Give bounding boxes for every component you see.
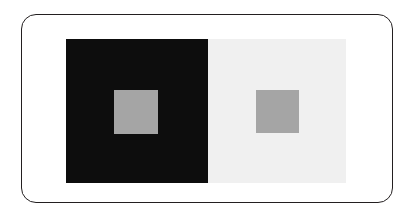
stimulus-strip bbox=[66, 39, 346, 183]
rounded-frame-border bbox=[21, 14, 393, 203]
figure-canvas bbox=[0, 0, 414, 218]
light-surround-panel bbox=[208, 39, 346, 183]
dark-surround-panel bbox=[66, 39, 208, 183]
gray-patch-on-light bbox=[256, 90, 299, 133]
gray-patch-on-dark bbox=[114, 90, 158, 134]
